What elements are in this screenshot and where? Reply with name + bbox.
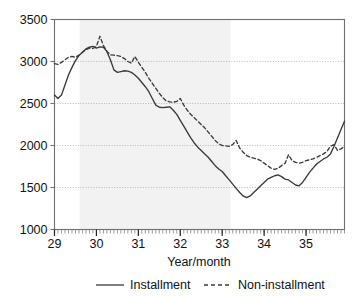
legend-label-installment: Installment bbox=[130, 278, 191, 292]
chart-container: 100015002000250030003500 29303132333435 … bbox=[0, 0, 359, 297]
x-tick-label: 31 bbox=[131, 237, 145, 251]
legend-label-non-installment: Non-installment bbox=[238, 278, 325, 292]
line-chart-figure: 100015002000250030003500 29303132333435 … bbox=[0, 0, 359, 297]
y-tick-label: 1000 bbox=[20, 223, 48, 237]
x-axis-title: Year/month bbox=[167, 255, 231, 269]
y-tick-label: 3500 bbox=[20, 13, 48, 27]
y-tick-label: 1500 bbox=[20, 181, 48, 195]
x-tick-label: 32 bbox=[173, 237, 187, 251]
y-tick-label: 2500 bbox=[20, 97, 48, 111]
y-tick-label: 2000 bbox=[20, 139, 48, 153]
x-tick-label: 34 bbox=[257, 237, 271, 251]
x-tick-label: 29 bbox=[48, 237, 62, 251]
x-tick-label: 35 bbox=[299, 237, 313, 251]
recession-shaded-band bbox=[80, 20, 231, 230]
x-tick-label: 33 bbox=[215, 237, 229, 251]
x-tick-label: 30 bbox=[89, 237, 103, 251]
y-tick-label: 3000 bbox=[20, 55, 48, 69]
